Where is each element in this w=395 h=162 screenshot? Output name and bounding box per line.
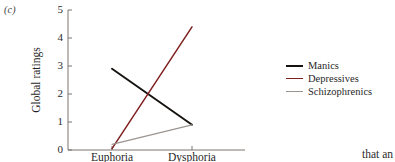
x-axis-ticks: EuphoriaDysphoria [91,146,216,162]
legend-item-schizophrenics: Schizophrenics [286,85,395,98]
legend-item-manics: Manics [286,59,395,72]
legend-label-schizophrenics: Schizophrenics [308,85,372,98]
series-line-schizophrenics [112,125,192,145]
legend-label-manics: Manics [308,59,339,72]
legend-swatch-depressives-icon [286,78,303,79]
series-lines [112,27,192,149]
series-line-depressives [112,27,192,149]
y-tick-label: 1 [58,115,64,127]
legend-item-depressives: Depressives [286,72,395,85]
y-tick-label: 0 [58,143,64,155]
y-tick-label: 5 [58,3,64,15]
legend-swatch-schizophrenics-icon [286,91,303,92]
figure-panel: (c) 012345 EuphoriaDysphoria Global rati… [0,0,395,162]
y-tick-label: 2 [58,87,64,99]
x-tick-label: Euphoria [91,151,133,162]
y-tick-label: 3 [58,59,64,71]
page-body-text-fragment: that an [362,148,393,160]
x-tick-label: Dysphoria [168,151,216,162]
y-axis-title: Global ratings [30,47,43,113]
chart-legend: Manics Depressives Schizophrenics [286,59,395,98]
y-tick-label: 4 [58,31,64,43]
line-chart: 012345 EuphoriaDysphoria Global ratings [0,0,260,162]
y-axis-ticks: 012345 [58,3,73,155]
legend-label-depressives: Depressives [308,72,359,85]
series-line-manics [112,69,192,125]
legend-swatch-manics-icon [286,65,303,67]
